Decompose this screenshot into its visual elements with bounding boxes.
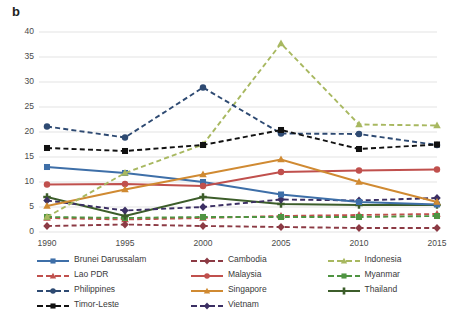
data-point-circle: [44, 181, 50, 187]
data-point-diamond: [199, 222, 206, 230]
legend-label: Myanmar: [365, 269, 400, 280]
line-chart: 0510152025303540199019952000200520102015: [0, 0, 444, 250]
data-point-circle: [356, 167, 362, 173]
series-line: [47, 167, 437, 205]
data-point-square: [356, 199, 362, 205]
y-axis-tick-label: 0: [12, 226, 34, 236]
legend-column: CambodiaMalaysiaSingaporeVietnam: [190, 252, 315, 312]
legend-marker-icon: [190, 253, 224, 265]
data-point-circle: [200, 84, 206, 90]
data-point-square: [434, 213, 440, 219]
legend-marker-icon: [36, 253, 70, 265]
data-point-plus: [199, 193, 206, 200]
data-point-diamond: [43, 222, 50, 230]
data-point-diamond: [433, 224, 440, 232]
legend-item-thailand[interactable]: Thailand: [327, 282, 432, 296]
legend-item-malaysia[interactable]: Malaysia: [190, 267, 315, 281]
legend-item-indonesia[interactable]: Indonesia: [327, 252, 432, 266]
data-point-square: [278, 191, 284, 197]
series-myanmar: [44, 213, 440, 221]
data-point-square: [44, 164, 50, 170]
legend-marker-icon: [36, 298, 70, 310]
legend-marker-icon: [190, 283, 224, 295]
legend-label: Malaysia: [228, 269, 262, 280]
data-point-circle: [44, 123, 50, 129]
legend-item-timor-leste[interactable]: Timor-Leste: [36, 297, 178, 311]
data-point-square: [278, 214, 284, 220]
series-line: [47, 225, 437, 229]
x-axis-tick-label: 2005: [261, 238, 301, 248]
chart-legend: Brunei DarussalamLao PDRPhilippinesTimor…: [0, 252, 444, 312]
y-axis-tick-label: 20: [12, 126, 34, 136]
series-philippines: [44, 84, 440, 148]
series-malaysia: [44, 166, 440, 189]
data-point-circle: [122, 134, 128, 140]
series-line: [47, 216, 437, 218]
y-axis-tick-label: 35: [12, 51, 34, 61]
x-axis-tick-label: 2015: [417, 238, 451, 248]
x-axis-tick-label: 2000: [183, 238, 223, 248]
legend-item-philippines[interactable]: Philippines: [36, 282, 178, 296]
legend-label: Thailand: [365, 284, 398, 295]
legend-item-myanmar[interactable]: Myanmar: [327, 267, 432, 281]
legend-label: Cambodia: [228, 254, 267, 265]
series-timor-leste: [44, 127, 440, 154]
legend-marker-icon: [36, 283, 70, 295]
y-axis-tick-label: 30: [12, 76, 34, 86]
data-point-square: [356, 146, 362, 152]
series-indonesia: [43, 40, 440, 220]
data-point-circle: [278, 169, 284, 175]
series-lao-pdr: [43, 210, 440, 222]
legend-item-vietnam[interactable]: Vietnam: [190, 297, 315, 311]
legend-label: Timor-Leste: [74, 299, 119, 310]
legend-marker-icon: [36, 268, 70, 280]
legend-column: Brunei DarussalamLao PDRPhilippinesTimor…: [36, 252, 178, 312]
series-line: [47, 88, 437, 146]
x-axis-tick-label: 1990: [27, 238, 67, 248]
y-axis-tick-label: 5: [12, 201, 34, 211]
data-point-square: [122, 148, 128, 154]
legend-item-cambodia[interactable]: Cambodia: [190, 252, 315, 266]
chart-svg: [0, 0, 444, 250]
data-point-diamond: [355, 224, 362, 232]
legend-label: Philippines: [74, 284, 115, 295]
legend-column: IndonesiaMyanmarThailand: [327, 252, 432, 312]
data-point-triangle: [277, 40, 284, 47]
legend-marker-icon: [190, 298, 224, 310]
data-point-square: [356, 214, 362, 220]
data-point-circle: [434, 166, 440, 172]
data-point-circle: [200, 183, 206, 189]
x-axis-tick-label: 1995: [105, 238, 145, 248]
series-cambodia: [43, 220, 440, 232]
y-axis-tick-label: 40: [12, 26, 34, 36]
legend-label: Indonesia: [365, 254, 402, 265]
data-point-square: [44, 145, 50, 151]
data-point-square: [200, 142, 206, 148]
y-axis-tick-label: 25: [12, 101, 34, 111]
data-point-circle: [356, 131, 362, 137]
legend-marker-icon: [327, 253, 361, 265]
data-point-diamond: [121, 206, 128, 214]
y-axis-tick-label: 15: [12, 151, 34, 161]
legend-item-lao-pdr[interactable]: Lao PDR: [36, 267, 178, 281]
series-line: [47, 130, 437, 151]
legend-label: Singapore: [228, 284, 267, 295]
legend-item-singapore[interactable]: Singapore: [190, 282, 315, 296]
data-point-diamond: [277, 223, 284, 231]
data-point-diamond: [199, 203, 206, 211]
legend-item-brunei-darussalam[interactable]: Brunei Darussalam: [36, 252, 178, 266]
legend-label: Brunei Darussalam: [74, 254, 146, 265]
legend-marker-icon: [327, 283, 361, 295]
data-point-square: [200, 214, 206, 220]
series-line: [47, 44, 437, 218]
legend-label: Vietnam: [228, 299, 259, 310]
data-point-triangle: [355, 121, 362, 128]
legend-marker-icon: [327, 268, 361, 280]
legend-label: Lao PDR: [74, 269, 109, 280]
data-point-square: [278, 127, 284, 133]
legend-marker-icon: [190, 268, 224, 280]
data-point-square: [434, 141, 440, 147]
x-axis-tick-label: 2010: [339, 238, 379, 248]
y-axis-tick-label: 10: [12, 176, 34, 186]
